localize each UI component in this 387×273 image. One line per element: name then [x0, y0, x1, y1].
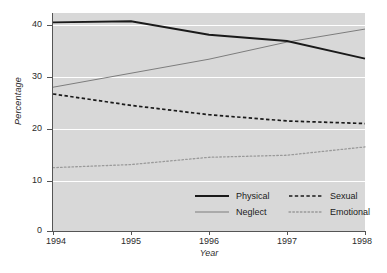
legend-item-sexual: Sexual: [287, 188, 358, 203]
legend-label-physical: Physical: [231, 191, 270, 201]
x-tick-label-1998: 1998: [342, 236, 382, 246]
x-tick-label-1996: 1996: [189, 236, 229, 246]
legend-label-neglect: Neglect: [231, 207, 267, 217]
x-tick-label-1994: 1994: [36, 236, 76, 246]
legend-label-sexual: Sexual: [325, 191, 358, 201]
series-line-emotional: [53, 147, 365, 168]
y-axis-line: [52, 13, 53, 232]
series-line-physical: [53, 21, 365, 58]
x-tick-mark-1998: [365, 231, 366, 235]
y-tick-label-20: 20: [2, 124, 42, 133]
dashed-dark-line-icon: [287, 190, 325, 202]
y-tick-mark-30: [47, 77, 52, 78]
line-chart-figure: Percentage Physical Sexual: [0, 0, 387, 273]
series-line-neglect: [53, 29, 365, 87]
legend-item-neglect: Neglect: [193, 204, 267, 219]
y-tick-mark-10: [47, 181, 52, 182]
legend-item-physical: Physical: [193, 188, 270, 203]
chart-legend: Physical Sexual Neglect Emotional: [193, 188, 365, 220]
x-tick-mark-1994: [53, 231, 54, 235]
y-tick-label-10: 10: [2, 176, 42, 185]
solid-dark-line-icon: [193, 190, 231, 202]
legend-label-emotional: Emotional: [325, 207, 370, 217]
x-axis-title: Year: [53, 248, 365, 258]
series-line-sexual: [53, 94, 365, 124]
y-tick-label-40: 40: [2, 20, 42, 29]
x-tick-mark-1997: [287, 231, 288, 235]
x-tick-label-1997: 1997: [267, 236, 307, 246]
dotted-gray-line-icon: [287, 206, 325, 218]
x-tick-mark-1995: [131, 231, 132, 235]
y-tick-mark-0: [47, 231, 52, 232]
plot-area: Physical Sexual Neglect Emotional: [53, 13, 365, 231]
legend-item-emotional: Emotional: [287, 204, 370, 219]
x-tick-label-1995: 1995: [111, 236, 151, 246]
y-tick-mark-20: [47, 129, 52, 130]
y-tick-label-0: 0: [2, 226, 42, 235]
y-tick-label-30: 30: [2, 72, 42, 81]
x-tick-mark-1996: [209, 231, 210, 235]
solid-gray-line-icon: [193, 206, 231, 218]
y-tick-mark-40: [47, 25, 52, 26]
